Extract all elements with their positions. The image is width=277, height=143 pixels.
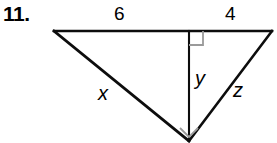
segment-label-top-left: 6: [114, 4, 125, 23]
right-angle-mark-top-icon: [189, 31, 203, 45]
segment-label-z: z: [233, 81, 243, 100]
segment-label-top-right: 4: [225, 4, 236, 23]
segment-label-x: x: [98, 84, 108, 103]
geometry-figure-panel: 11. 6 4 x y z: [0, 0, 277, 143]
segment-label-y: y: [195, 69, 205, 88]
left-leg-line: [54, 31, 189, 141]
